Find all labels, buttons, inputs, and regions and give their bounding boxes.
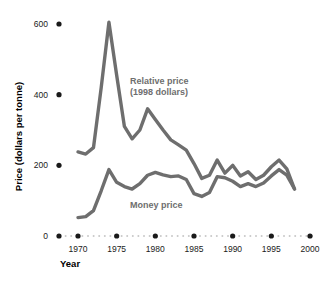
x-tick-dot (307, 233, 312, 238)
y-tick-dot (56, 163, 61, 168)
x-tick-dot (75, 233, 80, 238)
x-tick-dot (114, 233, 119, 238)
x-tick-dot (153, 233, 158, 238)
x-axis-tick-label: 1995 (255, 244, 287, 254)
x-tick-dot (191, 233, 196, 238)
y-tick-dot (56, 233, 61, 238)
x-axis-tick-label: 1970 (62, 244, 94, 254)
y-axis-tick-markers (56, 21, 61, 238)
series-annotation-money-price: Money price (130, 200, 183, 211)
series-line-relative-price (78, 22, 295, 189)
x-axis-tick-label: 2000 (294, 244, 326, 254)
series-annotation-money-price-line1: Money price (130, 200, 183, 211)
x-axis-title: Year (60, 258, 80, 269)
x-axis-tick-label: 1990 (217, 244, 249, 254)
chart-figure: 0200400600 1970197519801985199019952000 … (0, 0, 329, 287)
x-axis-tick-label: 1975 (101, 244, 133, 254)
x-axis-tick-label: 1985 (178, 244, 210, 254)
series-annotation-relative-price-line1: Relative price (130, 76, 189, 87)
y-axis-title: Price (dollars per tonne) (13, 72, 24, 202)
x-tick-dot (269, 233, 274, 238)
series-annotation-relative-price: Relative price (1998 dollars) (130, 76, 189, 98)
x-axis-dotted-line (59, 235, 313, 237)
y-tick-dot (56, 21, 61, 26)
y-axis-tick-label: 0 (18, 231, 48, 241)
y-axis-tick-label: 600 (18, 19, 48, 29)
y-tick-dot (56, 92, 61, 97)
series-annotation-relative-price-line2: (1998 dollars) (130, 87, 189, 98)
x-tick-dot (230, 233, 235, 238)
x-axis-tick-label: 1980 (139, 244, 171, 254)
